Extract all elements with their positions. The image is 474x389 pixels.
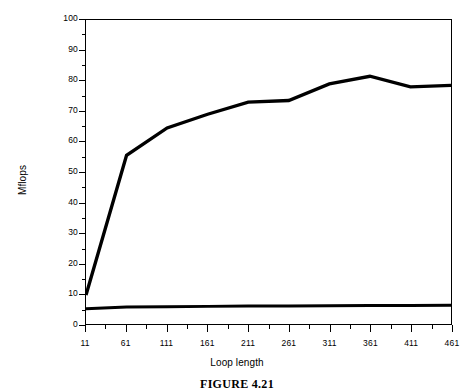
- x-axis-minor-tick: [309, 325, 310, 329]
- x-axis-minor-tick: [228, 325, 229, 329]
- y-axis-tick-label: 50: [68, 167, 78, 176]
- y-axis-tick-label: 60: [68, 136, 78, 145]
- y-axis-tick-label: 80: [68, 75, 78, 84]
- chart-canvas: [86, 20, 451, 324]
- x-axis-major-tick: [85, 325, 86, 332]
- x-axis-minor-tick: [269, 325, 270, 329]
- x-axis-major-tick: [370, 325, 371, 332]
- x-axis-tick-label: 11: [80, 338, 89, 348]
- x-axis-tick-label: 161: [200, 338, 215, 348]
- x-axis-tick-labels: 1161111161211261311361411461: [0, 338, 474, 350]
- y-axis-tick-label: 40: [68, 198, 78, 207]
- y-axis-tick-label: 10: [68, 289, 78, 298]
- x-axis-tick-label: 111: [160, 338, 174, 348]
- x-axis-major-tick: [126, 325, 127, 332]
- x-axis-minor-tick: [105, 325, 106, 329]
- figure-container: 0102030405060708090100 Mflops 1161111161…: [0, 0, 474, 389]
- x-axis-tick-label: 261: [281, 338, 296, 348]
- x-axis-tick-label: 211: [241, 338, 255, 348]
- x-axis-minor-tick: [432, 325, 433, 329]
- x-axis-tick-label: 361: [363, 338, 378, 348]
- x-axis-major-tick: [167, 325, 168, 332]
- x-axis-minor-tick: [146, 325, 147, 329]
- x-axis-tick-label: 411: [404, 338, 418, 348]
- y-axis-title-wrapper: Mflops: [8, 145, 38, 215]
- x-axis-major-tick: [452, 325, 453, 332]
- y-axis-tick-label: 100: [63, 14, 78, 23]
- series-line-lower-curve: [86, 305, 451, 309]
- y-axis-tick-label: 20: [68, 259, 78, 268]
- y-axis-title: Mflops: [17, 165, 29, 195]
- y-axis-tick-label: 90: [68, 45, 78, 54]
- x-axis-major-tick: [207, 325, 208, 332]
- x-axis-tick-label: 461: [445, 338, 460, 348]
- x-axis-major-tick: [289, 325, 290, 332]
- x-axis-major-tick: [330, 325, 331, 332]
- x-axis-ticks: [0, 325, 474, 337]
- x-axis-major-tick: [248, 325, 249, 332]
- plot-area: [85, 19, 452, 325]
- x-axis-minor-tick: [391, 325, 392, 329]
- y-axis-tick-label: 70: [68, 106, 78, 115]
- x-axis-major-tick: [411, 325, 412, 332]
- x-axis-title: Loop length: [0, 357, 474, 369]
- figure-caption: FIGURE 4.21: [0, 378, 474, 389]
- x-axis-tick-label: 311: [323, 338, 337, 348]
- y-axis-tick-label: 30: [68, 228, 78, 237]
- x-axis-minor-tick: [350, 325, 351, 329]
- series-line-upper-curve: [86, 76, 451, 295]
- x-axis-tick-label: 61: [121, 338, 131, 348]
- x-axis-minor-tick: [187, 325, 188, 329]
